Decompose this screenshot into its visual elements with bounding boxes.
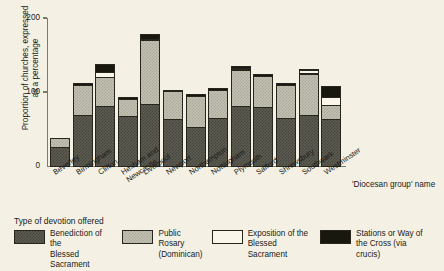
legend-label: Exposition of the Blessed Sacrament bbox=[248, 229, 312, 260]
y-tick-label: 200 bbox=[14, 13, 40, 22]
bar-segment bbox=[118, 99, 138, 117]
bar bbox=[118, 97, 138, 166]
bar bbox=[276, 83, 296, 166]
legend: Type of devotion offered Benediction of … bbox=[14, 216, 434, 271]
legend-swatch bbox=[122, 230, 153, 244]
legend-items: Benediction of the Blessed SacramentPubl… bbox=[14, 229, 434, 271]
legend-item: Public Rosary (Dominican) bbox=[122, 229, 203, 260]
bar-segment bbox=[95, 77, 115, 107]
legend-swatch bbox=[14, 230, 45, 244]
legend-item: Exposition of the Blessed Sacrament bbox=[212, 229, 312, 260]
bar-segment bbox=[73, 85, 93, 116]
bar-segment bbox=[231, 70, 251, 107]
bar bbox=[140, 34, 160, 166]
legend-swatch bbox=[212, 230, 243, 244]
x-axis-title: 'Diocesan group' name bbox=[352, 180, 435, 189]
legend-label: Stations or Way of the Cross (via crucis… bbox=[356, 229, 426, 260]
bar-segment bbox=[299, 74, 319, 116]
bar-segment bbox=[253, 76, 273, 108]
y-tick-label: 0 bbox=[14, 161, 40, 170]
bar-segment bbox=[321, 105, 341, 119]
legend-label: Public Rosary (Dominican) bbox=[158, 229, 203, 260]
legend-label: Benediction of the Blessed Sacrament bbox=[50, 229, 114, 271]
bar-segment bbox=[163, 91, 183, 120]
y-tick-label: 100 bbox=[14, 87, 40, 96]
bar-segment bbox=[140, 40, 160, 105]
legend-item: Stations or Way of the Cross (via crucis… bbox=[320, 229, 426, 260]
bar-segment bbox=[186, 96, 206, 128]
bar-segment bbox=[208, 90, 228, 119]
plot-area bbox=[47, 18, 346, 166]
legend-swatch bbox=[320, 230, 351, 244]
legend-item: Benediction of the Blessed Sacrament bbox=[14, 229, 114, 271]
legend-title: Type of devotion offered bbox=[14, 216, 434, 226]
bar-segment bbox=[276, 85, 296, 119]
